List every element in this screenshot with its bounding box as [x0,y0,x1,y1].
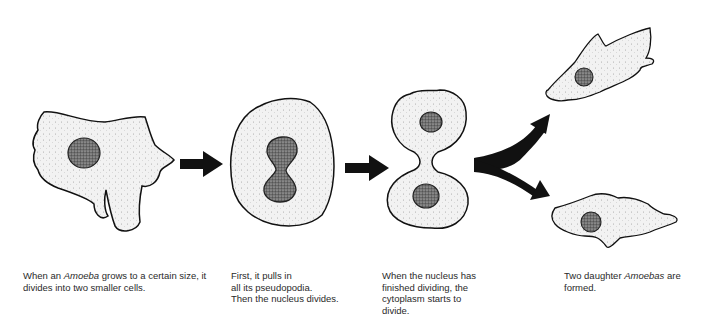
arrow-right-1 [180,151,223,177]
amoeba-body [552,194,677,247]
caption-line: cytoplasm starts to [382,293,492,305]
nucleus [575,68,593,86]
stage-2-rounded-cell [231,99,334,226]
caption-line: First, it pulls in [231,270,351,282]
caption-line: When the nucleus has [382,270,492,282]
caption-stage-3: When the nucleus has finished dividing, … [382,270,492,316]
caption-text: Two daughter [564,270,624,281]
nucleus-bottom [413,184,439,208]
caption-stage-4: Two daughter Amoebas are formed. [564,270,684,293]
caption-stage-1: When an Amoeba grows to a certain size, … [23,270,223,293]
caption-text: When an [23,270,64,281]
nucleus [68,138,100,168]
caption-line: divide. [382,305,492,317]
stage-4-daughter-top [546,28,654,101]
caption-italic: Amoeba [64,270,99,281]
caption-italic: Amoebas [624,270,664,281]
nucleus [581,212,601,232]
caption-stage-2: First, it pulls in all its pseudopodia. … [231,270,351,305]
stage-3-pinching-cell [387,90,468,228]
amoeba-body [33,112,174,231]
caption-line: all its pseudopodia. [231,282,351,294]
caption-line: Then the nucleus divides. [231,293,351,305]
stage-4-daughter-bottom [552,194,677,247]
amoeba-body [546,28,654,101]
stage-1-amoeba [33,112,174,231]
arrow-right-2 [345,155,389,181]
forked-arrow [474,114,550,200]
caption-line: finished dividing, the [382,282,492,294]
nucleus-top [420,112,442,132]
